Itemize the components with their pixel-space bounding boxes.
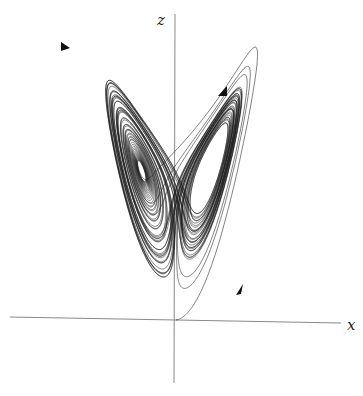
attractor-trajectory (106, 47, 258, 320)
x-axis (10, 317, 341, 323)
lorenz-attractor-figure: z x (0, 0, 363, 396)
arrow-icon (236, 284, 243, 295)
x-axis-label: x (347, 316, 356, 334)
z-axis-label: z (156, 11, 165, 29)
arrow-icon (61, 42, 70, 51)
